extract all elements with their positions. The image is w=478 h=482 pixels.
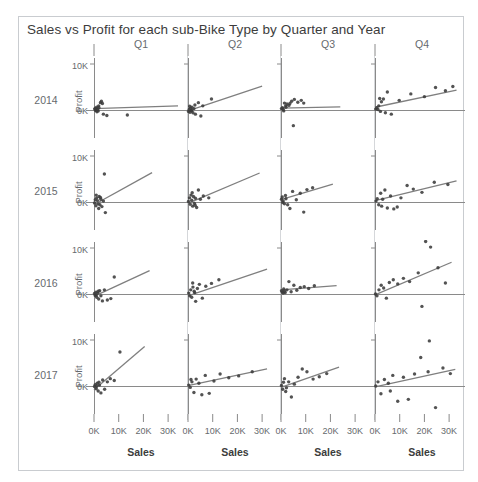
- x-tick-label: 30K: [157, 426, 179, 436]
- x-tick-label: 30K: [438, 426, 460, 436]
- x-axis-title-q1: Sales: [101, 446, 181, 458]
- x-tick-label: 0K: [364, 426, 386, 436]
- x-axis-title-q2: Sales: [195, 446, 275, 458]
- x-axis-title-q4: Sales: [382, 446, 462, 458]
- x-tick-label: 20K: [132, 426, 154, 436]
- x-tick-label: 20K: [319, 426, 341, 436]
- chart-viz: Sales vs Profit for each sub-Bike Type b…: [0, 0, 478, 482]
- x-tick-label: 10K: [202, 426, 224, 436]
- x-tick-label: 30K: [344, 426, 366, 436]
- x-tick-label: 0K: [83, 426, 105, 436]
- x-tick-label: 10K: [108, 426, 130, 436]
- x-tick-label: 20K: [226, 426, 248, 436]
- x-tick-label: 10K: [295, 426, 317, 436]
- x-tick-label: 10K: [389, 426, 411, 436]
- chart-plot-area: [0, 0, 478, 482]
- x-axis-title-q3: Sales: [288, 446, 368, 458]
- x-tick-label: 20K: [413, 426, 435, 436]
- x-tick-label: 0K: [177, 426, 199, 436]
- x-tick-label: 0K: [270, 426, 292, 436]
